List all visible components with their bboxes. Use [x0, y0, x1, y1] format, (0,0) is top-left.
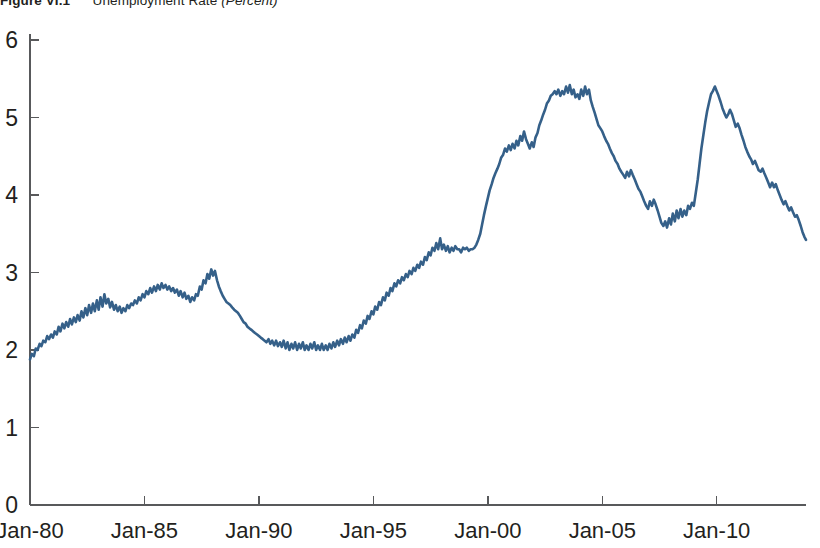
y-axis-tick-label: 1: [5, 415, 18, 441]
figure-root: Figure VI.1 Unemployment Rate (Percent) …: [0, 0, 820, 548]
y-axis-tick-label: 5: [5, 105, 18, 131]
unemployment-rate-series: [30, 85, 806, 359]
x-axis-tick-label: Jan-80: [0, 518, 64, 543]
chart-plot-area: 0123456 Jan-80Jan-85Jan-90Jan-95Jan-00Ja…: [0, 0, 820, 548]
x-axis-tick-label: Jan-00: [454, 518, 521, 543]
y-axis-tick-label: 3: [5, 260, 18, 286]
unemployment-rate-line-chart: 0123456 Jan-80Jan-85Jan-90Jan-95Jan-00Ja…: [0, 0, 820, 548]
y-axis-tick-label: 2: [5, 337, 18, 363]
x-axis-tick-labels: Jan-80Jan-85Jan-90Jan-95Jan-00Jan-05Jan-…: [0, 518, 750, 543]
x-axis-tick-label: Jan-85: [111, 518, 178, 543]
x-axis-tick-label: Jan-90: [225, 518, 292, 543]
y-axis-tick-labels: 0123456: [5, 27, 18, 518]
x-axis-tick-label: Jan-10: [683, 518, 750, 543]
x-axis-tick-label: Jan-05: [569, 518, 636, 543]
x-axis-tick-label: Jan-95: [340, 518, 407, 543]
y-axis-tick-label: 0: [5, 492, 18, 518]
y-axis-tick-label: 6: [5, 27, 18, 53]
y-axis-tick-label: 4: [5, 182, 18, 208]
y-axis-tick-marks: [30, 40, 39, 428]
x-axis-tick-marks: [144, 496, 716, 505]
